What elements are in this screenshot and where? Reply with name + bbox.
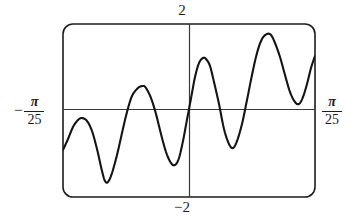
x-min-fraction: π 25 (24, 95, 44, 127)
x-max-fraction: π 25 (322, 95, 342, 127)
x-min-numerator: π (29, 95, 41, 111)
x-min-denominator: 25 (25, 112, 43, 128)
y-max-label: 2 (0, 3, 364, 18)
x-max-denominator: 25 (323, 112, 341, 128)
y-min-label: −2 (0, 200, 364, 215)
x-max-label: π 25 (322, 95, 342, 127)
x-max-numerator: π (326, 95, 338, 111)
graph-figure: 2 −2 − π 25 π 25 (0, 0, 364, 224)
plot-area (0, 0, 364, 224)
x-min-minus-sign: − (14, 102, 22, 121)
x-min-label: − π 25 (14, 95, 44, 127)
